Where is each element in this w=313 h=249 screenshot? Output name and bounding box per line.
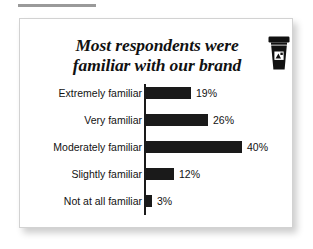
bar-label: Moderately familiar (22, 141, 142, 153)
bar-segment (145, 195, 152, 207)
table-row: Slightly familiar 12% (20, 168, 294, 180)
bar-label: Not at all familiar (22, 195, 142, 207)
top-divider-rule (18, 4, 96, 7)
bar-value: 12% (179, 168, 200, 180)
bar-value: 26% (213, 114, 234, 126)
bar-segment (145, 141, 242, 153)
bar-chart: Extremely familiar 19% Very familiar 26%… (20, 84, 294, 219)
chart-title: Most respondents were familiar with our … (20, 35, 294, 75)
table-row: Extremely familiar 19% (20, 87, 294, 99)
bar-label: Slightly familiar (22, 168, 142, 180)
bar-value: 3% (157, 195, 172, 207)
bar-label: Very familiar (22, 114, 142, 126)
bar-label: Extremely familiar (22, 87, 142, 99)
chart-title-line-2: familiar with our brand (20, 55, 294, 75)
bar-value: 19% (196, 87, 217, 99)
bar-segment (145, 87, 191, 99)
table-row: Not at all familiar 3% (20, 195, 294, 207)
bar-segment (145, 168, 174, 180)
bar-segment (145, 114, 208, 126)
screenshot-root: Most respondents were familiar with our … (0, 0, 313, 249)
table-row: Very familiar 26% (20, 114, 294, 126)
bar-value: 40% (247, 141, 268, 153)
table-row: Moderately familiar 40% (20, 141, 294, 153)
coffee-cup-icon (268, 36, 290, 70)
chart-card: Most respondents were familiar with our … (19, 18, 293, 228)
chart-title-line-1: Most respondents were (20, 35, 294, 55)
